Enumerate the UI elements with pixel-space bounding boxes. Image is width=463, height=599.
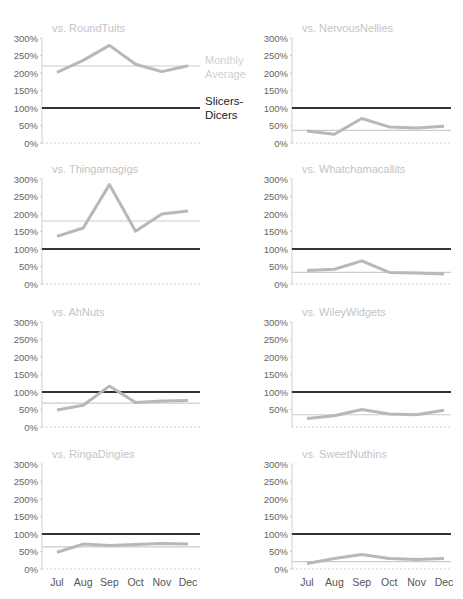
x-tick-label: Nov [407,576,426,588]
series-line [57,185,188,237]
x-tick-label: Aug [74,576,93,588]
y-tick-label: 200% [14,494,39,505]
y-tick-label: 0% [274,138,288,149]
chart-title: vs. Whatchamacallits [302,163,406,175]
y-tick-label: 200% [264,209,289,220]
legend: MonthlyAverageSlicers-Dicers [205,54,246,121]
y-tick-label: 250% [264,50,289,61]
y-tick-label: 300% [14,174,39,185]
series-line [57,544,188,553]
chart-canvas: vs. RoundTuits300%250%200%150%100%50%0%v… [0,0,463,599]
y-tick-label: 0% [274,564,288,575]
y-tick-label: 100% [14,244,39,255]
x-tick-label: Nov [152,576,171,588]
y-tick-label: 150% [264,511,289,522]
small-multiples-figure: vs. RoundTuits300%250%200%150%100%50%0%v… [0,0,463,599]
y-tick-label: 250% [14,334,39,345]
y-tick-label: 250% [14,476,39,487]
series-line [307,119,444,135]
y-tick-label: 50% [269,261,289,272]
legend-average-label: Average [205,68,246,80]
chart-title: vs. RoundTuits [52,22,125,34]
chart-panel: vs. NervousNellies300%250%200%150%100%50… [264,22,451,149]
y-tick-label: 100% [264,103,289,114]
y-tick-label: 50% [19,546,39,557]
chart-title: vs. WileyWidgets [302,306,386,318]
y-tick-label: 0% [24,564,38,575]
y-tick-label: 100% [14,387,39,398]
y-tick-label: 0% [24,138,38,149]
y-tick-label: 150% [14,511,39,522]
y-tick-label: 300% [264,174,289,185]
y-tick-label: 200% [264,352,289,363]
y-tick-label: 50% [19,120,39,131]
y-tick-label: 0% [274,279,288,290]
y-tick-label: 50% [269,404,289,415]
y-tick-label: 150% [14,85,39,96]
y-tick-label: 200% [14,68,39,79]
legend-average-label: Monthly [205,54,244,66]
y-tick-label: 0% [24,279,38,290]
y-tick-label: 100% [264,244,289,255]
legend-baseline-label: Dicers [205,109,238,121]
chart-title: vs. Thingamagigs [52,163,139,175]
chart-title: vs. SweetNuthins [302,448,387,460]
chart-panel: vs. RingaDingies300%250%200%150%100%50%0… [14,448,200,588]
y-tick-label: 300% [264,317,289,328]
chart-panel: vs. RoundTuits300%250%200%150%100%50%0% [14,22,200,149]
y-tick-label: 200% [264,494,289,505]
y-tick-label: 150% [264,369,289,380]
x-tick-label: Dec [435,576,454,588]
y-tick-label: 300% [14,33,39,44]
y-tick-label: 250% [264,476,289,487]
y-tick-label: 100% [14,103,39,114]
x-tick-label: Aug [325,576,344,588]
chart-title: vs. AhNuts [52,306,105,318]
y-tick-label: 200% [14,209,39,220]
x-tick-label: Jul [50,576,63,588]
y-tick-label: 0% [24,422,38,433]
y-tick-label: 200% [14,352,39,363]
x-tick-label: Dec [179,576,198,588]
series-line [57,45,188,72]
y-tick-label: 50% [269,120,289,131]
x-tick-label: Oct [127,576,143,588]
y-tick-label: 300% [264,33,289,44]
legend-baseline-label: Slicers- [205,95,244,107]
y-tick-label: 250% [14,191,39,202]
y-tick-label: 250% [14,50,39,61]
y-tick-label: 150% [264,85,289,96]
chart-panel: vs. Whatchamacallits300%250%200%150%100%… [264,163,451,290]
y-tick-label: 250% [264,191,289,202]
y-tick-label: 300% [14,317,39,328]
x-tick-label: Sep [352,576,371,588]
chart-panel: vs. WileyWidgets300%250%200%150%100%50% [264,306,451,427]
y-tick-label: 100% [14,529,39,540]
y-tick-label: 300% [14,459,39,470]
y-tick-label: 100% [264,529,289,540]
chart-panel: vs. SweetNuthins300%250%200%150%100%50%0… [264,448,454,588]
y-tick-label: 200% [264,68,289,79]
x-tick-label: Jul [300,576,313,588]
y-tick-label: 50% [19,404,39,415]
y-tick-label: 100% [264,387,289,398]
y-tick-label: 50% [269,546,289,557]
y-tick-label: 150% [264,226,289,237]
chart-title: vs. RingaDingies [52,448,135,460]
y-tick-label: 250% [264,334,289,345]
y-tick-label: 150% [14,369,39,380]
chart-title: vs. NervousNellies [302,22,394,34]
x-tick-label: Sep [100,576,119,588]
chart-panel: vs. AhNuts300%250%200%150%100%50%0% [14,306,200,433]
chart-panel: vs. Thingamagigs300%250%200%150%100%50%0… [14,163,200,290]
series-line [307,410,444,419]
x-tick-label: Oct [381,576,397,588]
y-tick-label: 50% [19,261,39,272]
y-tick-label: 300% [264,459,289,470]
series-line [57,386,188,410]
y-tick-label: 150% [14,226,39,237]
